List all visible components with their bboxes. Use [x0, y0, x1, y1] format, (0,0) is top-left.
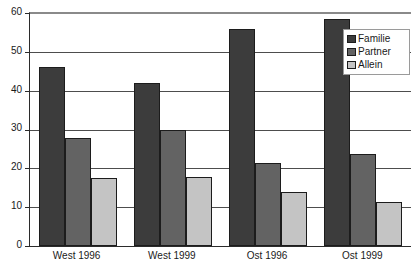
bar-familie-ost-1996: [229, 29, 255, 246]
gridline: [30, 91, 411, 92]
legend-label-familie: Familie: [358, 34, 390, 44]
y-tick-mark: [25, 13, 30, 14]
legend-swatch-familie: [347, 35, 356, 43]
x-tick-label: Ost 1996: [220, 250, 315, 262]
x-tick-label: West 1996: [29, 250, 124, 262]
y-tick-mark: [25, 52, 30, 53]
y-tick-label: 60: [11, 7, 22, 17]
gridline: [30, 13, 411, 14]
bar-partner-ost-1996: [255, 163, 281, 246]
bar-familie-west-1999: [134, 83, 160, 246]
y-tick-label: 40: [11, 85, 22, 95]
y-axis: 60 50 40 30 20 10 0: [0, 0, 22, 274]
bar-allein-ost-1996: [281, 192, 307, 246]
bar-partner-west-1996: [65, 138, 91, 246]
bar-allein-west-1996: [91, 178, 117, 246]
legend: Familie Partner Allein: [343, 29, 410, 75]
legend-item-partner[interactable]: Partner: [347, 46, 407, 58]
legend-swatch-allein: [347, 61, 356, 69]
bar-chart: 60 50 40 30 20 10 0 West 1996West 1999Os…: [0, 0, 415, 274]
legend-swatch-partner: [347, 48, 356, 56]
bar-partner-ost-1999: [350, 154, 376, 246]
y-tick-mark: [25, 246, 30, 247]
legend-label-partner: Partner: [358, 47, 391, 57]
y-tick-label: 0: [16, 240, 22, 250]
y-tick-label: 50: [11, 46, 22, 56]
legend-item-familie[interactable]: Familie: [347, 33, 407, 45]
bar-partner-west-1999: [160, 130, 186, 247]
x-tick-label: West 1999: [124, 250, 219, 262]
gridline: [30, 130, 411, 131]
y-tick-mark: [25, 130, 30, 131]
y-tick-mark: [25, 91, 30, 92]
bar-allein-ost-1999: [376, 202, 402, 246]
bar-familie-west-1996: [39, 67, 65, 246]
x-tick-label: Ost 1999: [315, 250, 410, 262]
y-tick-mark: [25, 207, 30, 208]
bar-allein-west-1999: [186, 177, 212, 246]
legend-item-allein[interactable]: Allein: [347, 59, 407, 71]
y-tick-label: 10: [11, 201, 22, 211]
y-tick-label: 30: [11, 123, 22, 133]
y-tick-mark: [25, 168, 30, 169]
y-tick-label: 20: [11, 162, 22, 172]
legend-label-allein: Allein: [358, 60, 382, 70]
